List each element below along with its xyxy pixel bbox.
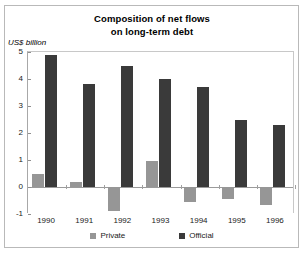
y-axis-tick-label: 3	[0, 101, 23, 110]
y-axis-tick-label: 1	[0, 155, 23, 164]
legend-swatch-private-icon	[90, 233, 96, 239]
x-axis-label-1996: 1996	[256, 216, 294, 225]
chart-legend: PrivateOfficial	[0, 231, 304, 240]
x-axis-label-1994: 1994	[180, 216, 218, 225]
y-axis-tick-label: 2	[0, 128, 23, 137]
bar-private-1992	[108, 187, 120, 211]
bar-official-1990	[45, 55, 57, 187]
legend-swatch-official-icon	[179, 233, 185, 239]
bar-private-1990	[32, 174, 44, 188]
bar-private-1996	[260, 187, 272, 205]
x-axis-tick-mark	[295, 185, 296, 189]
y-axis-tick-label: 0	[0, 182, 23, 191]
bar-official-1993	[159, 79, 171, 187]
y-axis-tick-label: -1	[0, 209, 23, 218]
y-axis-tick-label: 5	[0, 47, 23, 56]
x-axis-label-1990: 1990	[27, 216, 65, 225]
bars-layer	[28, 52, 293, 213]
chart-page: Composition of net flows on long-term de…	[0, 0, 304, 253]
bar-private-1994	[184, 187, 196, 202]
x-axis-label-1993: 1993	[141, 216, 179, 225]
y-axis-tick-label: 4	[0, 74, 23, 83]
bar-private-1991	[70, 182, 82, 187]
legend-item-private: Private	[90, 231, 125, 240]
bar-official-1991	[83, 84, 95, 187]
bar-official-1994	[197, 87, 209, 187]
plot-area	[27, 51, 294, 213]
x-axis-label-1991: 1991	[65, 216, 103, 225]
bar-official-1995	[235, 120, 247, 188]
legend-label: Official	[189, 231, 213, 240]
chart-title-line-2: on long-term debt	[0, 26, 304, 39]
chart-title-line-1: Composition of net flows	[0, 13, 304, 26]
bar-official-1992	[121, 66, 133, 188]
bar-official-1996	[273, 125, 285, 187]
x-axis-label-1995: 1995	[218, 216, 256, 225]
x-axis-label-1992: 1992	[103, 216, 141, 225]
y-axis-tick-mark	[28, 214, 31, 215]
bar-private-1993	[146, 161, 158, 187]
chart-title: Composition of net flows on long-term de…	[0, 13, 304, 38]
bar-private-1995	[222, 187, 234, 199]
legend-label: Private	[100, 231, 125, 240]
legend-item-official: Official	[179, 231, 213, 240]
